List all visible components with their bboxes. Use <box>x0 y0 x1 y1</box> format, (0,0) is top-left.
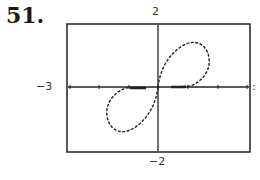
curve-loop-q3 <box>107 87 158 132</box>
plot-area <box>0 0 260 180</box>
curve-loop-q1 <box>158 42 209 87</box>
